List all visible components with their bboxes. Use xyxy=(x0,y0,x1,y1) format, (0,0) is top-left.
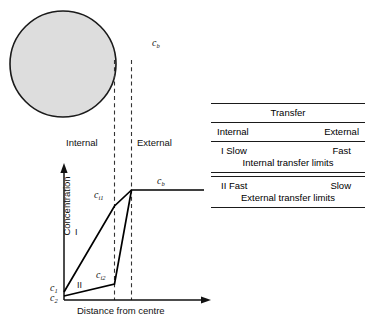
region-label-external: External xyxy=(137,138,172,148)
ci2-subscript: i2 xyxy=(100,274,105,281)
bulk-concentration-label-top: cb xyxy=(152,38,160,48)
curve-label-I: I xyxy=(75,228,78,237)
table-row-II-note: External transfer limits xyxy=(211,192,365,207)
table-row-I: I Slow Fast xyxy=(211,142,365,157)
table-column-header-internal: Internal xyxy=(217,126,249,137)
bulk-concentration-label-plateau: cb xyxy=(157,176,165,186)
interface-concentration-label-ci1: ci1 xyxy=(94,190,104,200)
interface-concentration-label-ci2: ci2 xyxy=(96,270,106,280)
table-row-I-note-text: Internal transfer limits xyxy=(243,157,334,168)
table-column-header-external: External xyxy=(324,126,359,137)
table-row-II: II Fast Slow xyxy=(211,177,365,192)
curve-II-external-limited xyxy=(64,190,132,296)
figure-container: Internal External cb Concentration Dista… xyxy=(0,0,373,328)
transfer-table: Transfer Internal External I Slow Fast I… xyxy=(211,103,365,208)
region-label-internal: Internal xyxy=(66,138,98,148)
curve-I-internal-limited xyxy=(64,190,204,292)
table-bottom-rule xyxy=(211,207,365,208)
table-row-II-note-text: External transfer limits xyxy=(241,192,335,203)
table-row-I-note: Internal transfer limits xyxy=(211,157,365,172)
table-title-row: Transfer xyxy=(211,104,365,122)
x-axis-arrowhead xyxy=(201,296,211,303)
x-axis-title: Distance from centre xyxy=(77,306,165,316)
table-header-row: Internal External xyxy=(211,123,365,141)
ci1-subscript: i1 xyxy=(98,194,103,201)
table-title: Transfer xyxy=(270,107,305,118)
table-row-II-internal: II Fast xyxy=(221,180,247,191)
y-tick-label-c2: c2 xyxy=(50,293,58,303)
table-row-I-external: Fast xyxy=(333,145,351,156)
table-row-I-internal: I Slow xyxy=(221,145,247,156)
bulk-concentration-subscript-top: b xyxy=(156,42,159,49)
y-axis-title: Concentration xyxy=(62,158,72,254)
plateau-cb-subscript: b xyxy=(161,180,164,187)
shaded-particle-circle xyxy=(10,11,116,117)
table-row-II-external: Slow xyxy=(330,180,351,191)
y-tick-c2-subscript: 2 xyxy=(54,297,57,304)
curve-label-II: II xyxy=(77,281,82,290)
